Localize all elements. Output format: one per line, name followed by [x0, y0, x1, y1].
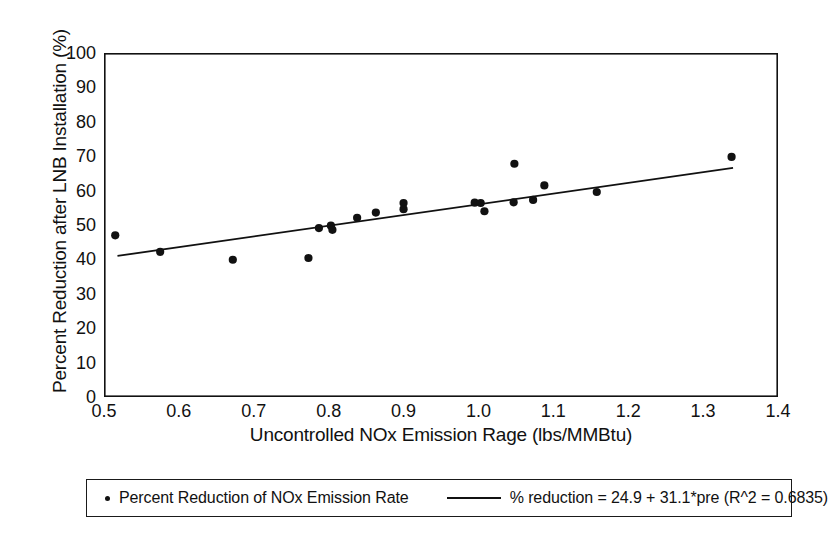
y-tick-label: 90	[50, 78, 96, 96]
y-tick-label: 80	[50, 113, 96, 131]
y-tick-label: 40	[50, 250, 96, 268]
x-tick-label: 1.3	[673, 402, 733, 420]
data-points	[111, 153, 736, 264]
y-tick-label: 30	[50, 285, 96, 303]
y-tick-label: 10	[50, 354, 96, 372]
plot-canvas	[104, 53, 778, 397]
axes-ticks	[104, 53, 778, 397]
y-tick-label: 60	[50, 182, 96, 200]
x-axis-tick-labels: 0.50.60.70.80.91.01.11.21.31.4	[104, 402, 778, 426]
legend-entry-regression: % reduction = 24.9 + 31.1*pre (R^2 = 0.6…	[447, 489, 828, 507]
legend-label-scatter: Percent Reduction of NOx Emission Rate	[119, 489, 409, 507]
y-tick-label: 50	[50, 216, 96, 234]
plot-area	[104, 53, 778, 397]
x-tick-label: 1.2	[598, 402, 658, 420]
x-tick-label: 1.4	[748, 402, 808, 420]
y-tick-label: 20	[50, 319, 96, 337]
x-axis-title: Uncontrolled NOx Emission Rage (lbs/MMBt…	[104, 424, 778, 446]
y-tick-label: 100	[50, 44, 96, 62]
y-axis-tick-labels: 0102030405060708090100	[40, 53, 96, 397]
legend-label-regression: % reduction = 24.9 + 31.1*pre (R^2 = 0.6…	[510, 489, 828, 507]
x-tick-label: 0.5	[74, 402, 134, 420]
y-tick-label: 70	[50, 147, 96, 165]
x-tick-label: 0.8	[299, 402, 359, 420]
x-tick-label: 0.9	[374, 402, 434, 420]
x-tick-label: 1.0	[448, 402, 508, 420]
x-tick-label: 1.1	[523, 402, 583, 420]
x-tick-label: 0.7	[224, 402, 284, 420]
line-marker-icon	[447, 497, 501, 499]
axes-frame	[105, 54, 777, 396]
legend-entry-scatter: Percent Reduction of NOx Emission Rate	[105, 489, 409, 507]
regression-line	[117, 168, 733, 256]
legend: Percent Reduction of NOx Emission Rate %…	[86, 479, 792, 517]
dot-marker-icon	[105, 496, 110, 501]
x-tick-label: 0.6	[149, 402, 209, 420]
